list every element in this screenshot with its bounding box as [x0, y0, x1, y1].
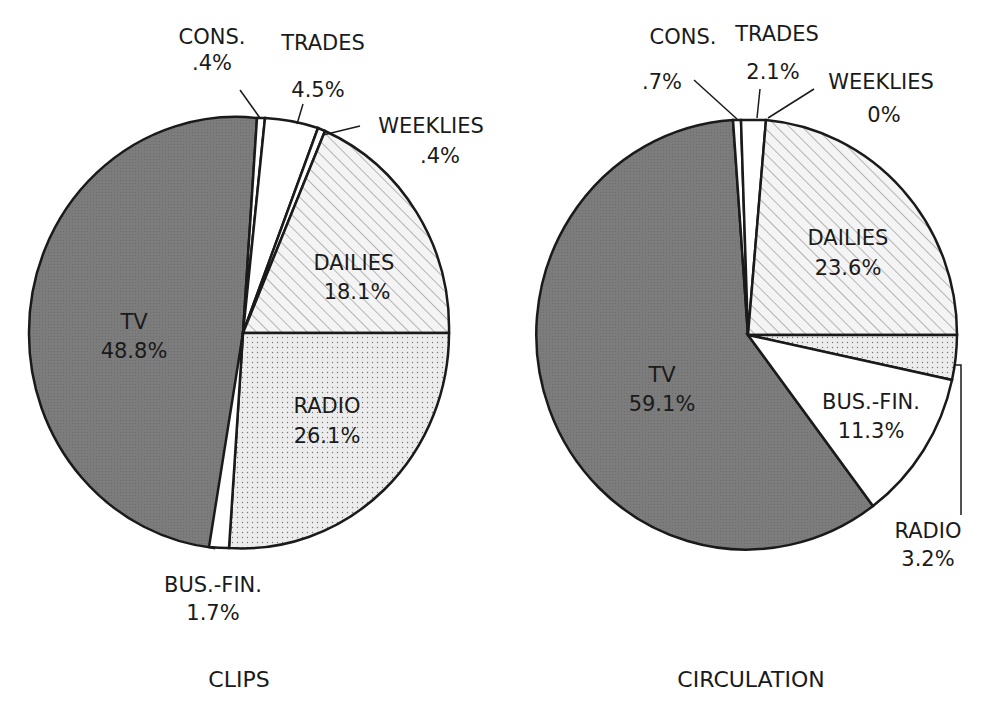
- circulation-value-radio: 3.2%: [901, 547, 954, 571]
- clips-label-weeklies: WEEKLIES: [378, 114, 484, 138]
- circulation-label-bus-fin: BUS.-FIN.: [822, 390, 920, 414]
- svg-text:CLIPS: CLIPS: [208, 667, 269, 692]
- svg-text:1.7%: 1.7%: [186, 601, 239, 625]
- svg-text:TRADES: TRADES: [734, 22, 819, 46]
- circulation-value-trades: 2.1%: [746, 60, 799, 84]
- svg-text:CONS.: CONS.: [179, 25, 246, 49]
- leader-line: [955, 365, 961, 515]
- svg-text:2.1%: 2.1%: [746, 60, 799, 84]
- circulation-pie: CONS. .7% TRADES 2.1% WEEKLIES 0% DAILIE…: [536, 22, 961, 692]
- circulation-label-dailies: DAILIES: [808, 226, 889, 250]
- clips-value-trades: 4.5%: [291, 78, 344, 102]
- clips-pie: CONS. .4% TRADES 4.5% WEEKLIES .4% DAILI…: [29, 25, 484, 692]
- pie-charts: CONS. .4% TRADES 4.5% WEEKLIES .4% DAILI…: [0, 0, 997, 724]
- clips-value-radio: 26.1%: [294, 424, 361, 448]
- svg-text:DAILIES: DAILIES: [314, 251, 395, 275]
- clips-value-bus-fin: 1.7%: [186, 601, 239, 625]
- circulation-label-tv: TV: [647, 363, 676, 387]
- svg-text:26.1%: 26.1%: [294, 424, 361, 448]
- circulation-title: CIRCULATION: [677, 667, 824, 692]
- circulation-label-trades: TRADES: [734, 22, 819, 46]
- clips-title: CLIPS: [208, 667, 269, 692]
- clips-label-radio: RADIO: [294, 394, 361, 418]
- svg-text:WEEKLIES: WEEKLIES: [378, 114, 484, 138]
- svg-text:4.5%: 4.5%: [291, 78, 344, 102]
- circulation-value-dailies: 23.6%: [815, 256, 882, 280]
- svg-text:59.1%: 59.1%: [629, 392, 696, 416]
- clips-value-weeklies: .4%: [420, 144, 460, 168]
- svg-text:11.3%: 11.3%: [838, 419, 905, 443]
- svg-text:.4%: .4%: [420, 144, 460, 168]
- clips-label-trades: TRADES: [280, 31, 365, 55]
- svg-text:18.1%: 18.1%: [324, 280, 391, 304]
- svg-text:RADIO: RADIO: [294, 394, 361, 418]
- svg-text:CONS.: CONS.: [650, 25, 717, 49]
- circulation-value-weeklies: 0%: [867, 103, 900, 127]
- clips-label-dailies: DAILIES: [314, 251, 395, 275]
- svg-text:WEEKLIES: WEEKLIES: [828, 70, 934, 94]
- circulation-value-tv: 59.1%: [629, 392, 696, 416]
- svg-text:BUS.-FIN.: BUS.-FIN.: [822, 390, 920, 414]
- clips-label-cons: CONS.: [179, 25, 246, 49]
- leader-line: [757, 89, 760, 118]
- leader-line: [297, 104, 303, 124]
- circulation-value-cons: .7%: [642, 70, 682, 94]
- svg-text:23.6%: 23.6%: [815, 256, 882, 280]
- svg-text:CIRCULATION: CIRCULATION: [677, 667, 824, 692]
- svg-text:3.2%: 3.2%: [901, 547, 954, 571]
- svg-text:TRADES: TRADES: [280, 31, 365, 55]
- circulation-label-radio: RADIO: [895, 519, 962, 543]
- svg-text:TV: TV: [119, 310, 148, 334]
- leader-line: [768, 89, 814, 118]
- svg-text:DAILIES: DAILIES: [808, 226, 889, 250]
- leader-line: [240, 90, 260, 118]
- clips-label-tv: TV: [119, 310, 148, 334]
- circulation-label-cons: CONS.: [650, 25, 717, 49]
- svg-text:TV: TV: [647, 363, 676, 387]
- svg-text:.4%: .4%: [192, 51, 232, 75]
- circulation-label-weeklies: WEEKLIES: [828, 70, 934, 94]
- leader-line: [323, 126, 360, 135]
- svg-text:RADIO: RADIO: [895, 519, 962, 543]
- svg-text:0%: 0%: [867, 103, 900, 127]
- svg-text:.7%: .7%: [642, 70, 682, 94]
- clips-value-tv: 48.8%: [101, 339, 168, 363]
- svg-text:48.8%: 48.8%: [101, 339, 168, 363]
- leader-line: [694, 80, 737, 119]
- svg-text:BUS.-FIN.: BUS.-FIN.: [164, 573, 262, 597]
- clips-value-dailies: 18.1%: [324, 280, 391, 304]
- clips-label-bus-fin: BUS.-FIN.: [164, 573, 262, 597]
- clips-value-cons: .4%: [192, 51, 232, 75]
- circulation-value-bus-fin: 11.3%: [838, 419, 905, 443]
